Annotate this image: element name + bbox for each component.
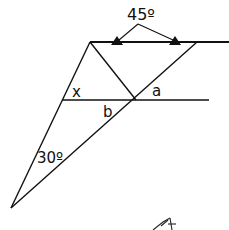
label-angle-x: x — [72, 83, 81, 101]
arrowhead-right-icon — [169, 36, 181, 45]
label-angle-a: a — [152, 82, 161, 100]
geometry-diagram: 45º x a b 30º — [0, 0, 229, 230]
inner-segment — [90, 42, 136, 100]
label-angle-b: b — [103, 103, 113, 121]
right-transversal — [11, 42, 197, 208]
label-45-degrees: 45º — [127, 5, 155, 24]
angle-pointer-right — [138, 24, 173, 40]
left-transversal — [11, 42, 90, 208]
angle-pointer-left — [119, 24, 138, 40]
cropped-figure-fragment — [153, 218, 176, 230]
label-30-degrees: 30º — [37, 149, 63, 167]
arrowhead-left-icon — [111, 36, 123, 45]
